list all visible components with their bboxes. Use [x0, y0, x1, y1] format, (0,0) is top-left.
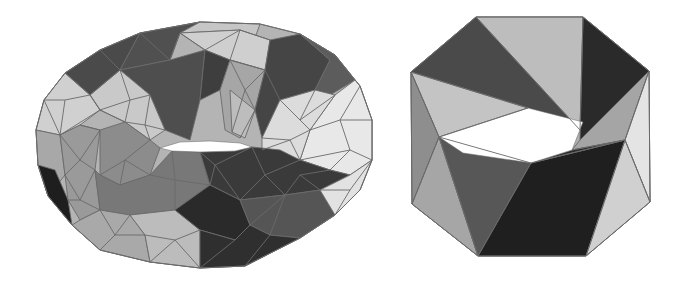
figure-stage — [0, 0, 687, 289]
coarse-torus-mesh — [0, 0, 687, 289]
